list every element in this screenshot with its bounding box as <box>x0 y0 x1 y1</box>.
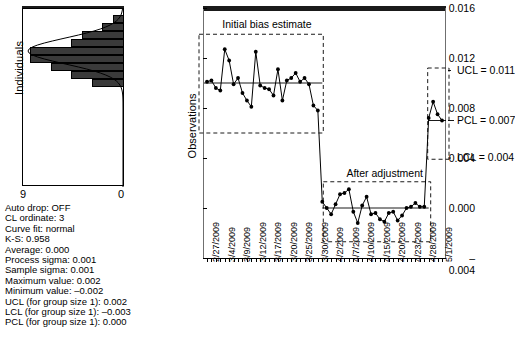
data-point <box>307 82 311 86</box>
data-point <box>241 91 245 95</box>
data-point <box>334 202 338 206</box>
phase-1-dashed-box <box>199 34 323 133</box>
data-point <box>258 84 262 88</box>
data-point <box>249 105 253 109</box>
data-point <box>254 50 258 54</box>
data-point <box>418 205 422 209</box>
data-point <box>365 195 369 199</box>
data-point <box>343 191 347 195</box>
data-point <box>289 76 293 80</box>
data-point <box>400 214 404 218</box>
data-point <box>214 86 218 90</box>
data-point <box>378 217 382 221</box>
control-limit-label-pcl: PCL = 0.007 <box>457 114 515 126</box>
data-point <box>396 219 400 223</box>
data-point <box>409 205 413 209</box>
control-limit-label-lcl: LCL = 0.004 <box>457 151 514 163</box>
data-point <box>414 201 418 205</box>
data-point <box>436 112 440 116</box>
data-point <box>351 210 355 214</box>
data-point <box>356 221 360 225</box>
data-point <box>276 67 280 71</box>
data-point <box>245 99 249 103</box>
data-point <box>347 187 351 191</box>
data-point <box>387 211 391 215</box>
data-point <box>272 94 276 98</box>
histogram-panel: Individuals 9 0 Auto drop: OFF CL ordina… <box>0 0 170 338</box>
data-point <box>391 210 395 214</box>
data-point <box>338 192 342 196</box>
data-point <box>360 204 364 208</box>
data-point <box>320 200 324 204</box>
histogram-plot-area <box>22 8 124 186</box>
data-point <box>285 79 289 83</box>
data-point <box>325 206 329 210</box>
data-point <box>236 76 240 80</box>
chart-series-overlay <box>170 0 479 338</box>
data-point <box>329 212 333 216</box>
statistics-summary: Auto drop: OFF CL ordinate: 3 Curve fit:… <box>5 203 165 328</box>
data-point <box>422 205 426 209</box>
data-point <box>210 79 214 83</box>
histogram-tick-right: 0 <box>118 188 124 200</box>
data-point <box>405 206 409 210</box>
data-point <box>298 80 302 84</box>
data-point <box>382 220 386 224</box>
annotation-initial-bias-estimate: Initial bias estimate <box>220 18 313 30</box>
data-point <box>223 47 227 51</box>
histogram-y-axis-label: Individuals <box>13 13 25 123</box>
data-point <box>369 212 373 216</box>
data-point <box>263 86 267 90</box>
data-point <box>303 76 307 80</box>
control-limit-label-ucl: UCL = 0.011 <box>457 64 515 76</box>
annotation-after-adjustment: After adjustment <box>344 167 424 179</box>
histogram-tick-left: 9 <box>20 188 26 200</box>
data-point <box>294 71 298 75</box>
data-point <box>218 89 222 93</box>
data-point <box>267 87 271 91</box>
data-point <box>232 82 236 86</box>
data-point <box>440 119 444 123</box>
normal-curve-overlay <box>23 9 125 187</box>
data-point <box>316 109 320 113</box>
phase-2-dashed-box <box>323 182 430 242</box>
data-point <box>374 211 378 215</box>
data-point <box>427 116 431 120</box>
data-point <box>431 100 435 104</box>
data-point <box>205 80 209 84</box>
data-point <box>227 59 231 63</box>
stat-pcl: PCL (for group size 1): 0.000 <box>5 317 165 327</box>
data-point <box>312 104 316 108</box>
control-chart-panel: Observations 0.0160.0120.0080.0040.000–0… <box>170 0 479 338</box>
data-series-line <box>207 49 442 223</box>
data-point <box>280 99 284 103</box>
